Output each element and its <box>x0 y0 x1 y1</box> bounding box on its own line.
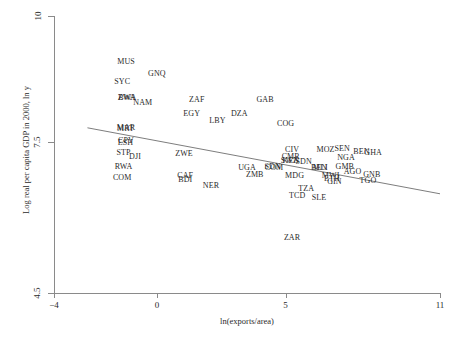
data-point-label: LBY <box>209 117 225 125</box>
data-point-label: GIN <box>327 178 342 186</box>
data-point-label: SDN <box>295 158 311 166</box>
data-point-label: COG <box>277 120 294 128</box>
data-point-label: GNQ <box>148 70 166 78</box>
y-tick-label-text: 4.5 <box>32 287 42 298</box>
y-tick-label: 4.5 <box>28 287 46 299</box>
data-point-label: SLE <box>312 194 327 202</box>
data-point-label: ZAR <box>284 234 300 242</box>
x-tick-mark <box>440 293 441 298</box>
data-point-label: GHA <box>364 149 382 157</box>
x-tick-mark <box>286 293 287 298</box>
y-axis-title: Log real per capita GDP in 2000, ln y <box>21 50 31 250</box>
data-point-label: RWA <box>115 163 133 171</box>
scatter-plot-figure: 107.54.5 Log real per capita GDP in 2000… <box>0 0 454 343</box>
y-tick-label-text: 7.5 <box>32 136 42 147</box>
data-point-label: BDI <box>178 176 192 184</box>
x-tick-mark <box>54 293 55 298</box>
x-axis-line <box>54 293 440 294</box>
data-point-label: MOZ <box>316 146 334 154</box>
data-point-label: MUS <box>117 58 135 66</box>
data-point-label: MDG <box>285 172 304 180</box>
x-tick-label: −4 <box>39 300 69 310</box>
data-point-label: SYC <box>114 78 130 86</box>
x-tick-label: 5 <box>271 300 301 310</box>
fit-line-segment <box>87 128 440 194</box>
data-point-label: GAB <box>256 96 273 104</box>
x-axis-title: ln(exports/area) <box>54 316 440 326</box>
x-tick-label: 11 <box>425 300 454 310</box>
data-point-label: NAM <box>133 99 152 107</box>
data-point-label: COM <box>265 164 284 172</box>
data-point-label: NER <box>203 182 219 190</box>
data-point-label: DJI <box>129 153 141 161</box>
y-tick-label: 10 <box>28 10 46 22</box>
data-point-label: TCD <box>289 192 305 200</box>
data-point-label: EGY <box>183 110 200 118</box>
data-point-label: ESH <box>118 139 133 147</box>
y-tick-label-text: 10 <box>32 12 42 21</box>
data-point-label: COM <box>113 174 132 182</box>
data-point-label: DZA <box>231 110 248 118</box>
data-point-label: TGO <box>360 177 377 185</box>
x-tick-label: 0 <box>142 300 172 310</box>
x-tick-mark <box>157 293 158 298</box>
data-point-label: ZAF <box>189 96 204 104</box>
data-point-label: ZMB <box>246 171 264 179</box>
plot-area: MUSGNQSYCBWAZWANAMZAFGABEGYDZALBYCOGMARM… <box>54 16 440 293</box>
data-point-label: ZWE <box>175 150 193 158</box>
data-point-label: NGA <box>337 154 355 162</box>
data-point-label: AGO <box>344 168 362 176</box>
data-point-label: MRT <box>117 125 134 133</box>
